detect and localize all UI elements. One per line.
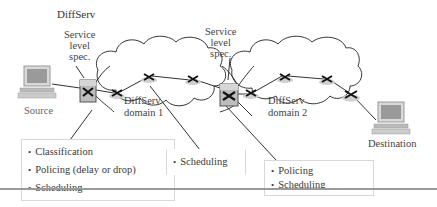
domain-2-label: DiffServ domain 2 [268,95,307,119]
edge-router-right-icon [220,84,238,106]
function-item: Scheduling [173,153,239,171]
domain-line: domain 1 [124,107,163,119]
function-item: Classification [28,143,168,161]
destination-label: Destination [368,138,416,150]
destination-computer-icon [372,102,410,134]
domain-line: DiffServ [268,95,307,107]
sls-line: spec. [205,48,237,59]
source-computer-icon [18,66,56,98]
domain-line: domain 2 [268,107,307,119]
function-item: Policing (delay or drop) [28,161,168,179]
domain-1-label: DiffServ domain 1 [124,95,163,119]
sls-line: level [205,37,237,48]
bottom-rule [0,188,437,190]
service-level-spec-right-label: Service level spec. [205,26,237,59]
interior-functions-box: Scheduling [166,149,246,175]
ingress-functions-box: Classification Policing (delay or drop) … [21,139,175,201]
sls-line: spec. [64,51,96,62]
sls-line: level [64,40,96,51]
sls-line: Service [64,29,96,40]
domain-line: DiffServ [124,95,163,107]
sls-line: Service [205,26,237,37]
edge-router-left-icon [80,80,96,102]
service-level-spec-left-label: Service level spec. [64,29,96,62]
boundary-functions-box: Policing Scheduling [264,160,374,196]
function-item: Policing [271,164,367,178]
diagram-title: DiffServ [57,8,95,20]
source-label: Source [24,105,53,117]
